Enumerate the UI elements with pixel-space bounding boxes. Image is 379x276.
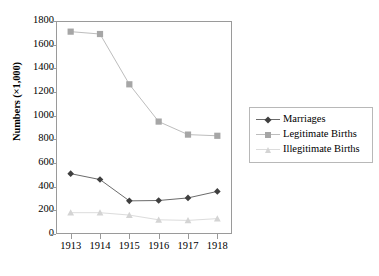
x-axis-tick-mark — [217, 234, 218, 239]
y-axis-tick-label: 600 — [8, 157, 54, 168]
y-axis-tick-label: 800 — [8, 133, 54, 144]
y-axis-tick-label: 1200 — [8, 86, 54, 97]
legend-marker-triangle-icon — [255, 143, 281, 156]
legend-label: Illegitimate Births — [281, 144, 360, 155]
y-axis-tick-label: 200 — [8, 204, 54, 215]
plot-area — [56, 21, 232, 234]
legend-marker-diamond-icon — [255, 113, 281, 126]
y-axis-tick-mark — [51, 234, 56, 235]
y-axis-tick-label: 0 — [8, 228, 54, 239]
y-axis-tick-label: 1000 — [8, 110, 54, 121]
legend-label: Marriages — [281, 114, 326, 125]
y-axis-tick-label: 400 — [8, 181, 54, 192]
legend-item-marriages[interactable]: Marriages — [255, 112, 367, 127]
x-axis-tick-mark — [159, 234, 160, 239]
x-axis-tick-mark — [129, 234, 130, 239]
y-axis-tick-label: 1600 — [8, 39, 54, 50]
legend-marker-square-icon — [255, 128, 281, 141]
chart-legend: Marriages Legitimate Births Illegitimate… — [249, 107, 373, 163]
x-axis-tick-mark — [71, 234, 72, 239]
y-axis-tick-label: 1400 — [8, 62, 54, 73]
x-axis-tick-label: 1918 — [197, 241, 237, 252]
y-axis-title: Numbers (×1,000) — [11, 37, 22, 167]
legend-item-legitimate-births[interactable]: Legitimate Births — [255, 127, 367, 142]
x-axis-tick-mark — [100, 234, 101, 239]
line-chart: Numbers (×1,000) 02004006008001000120014… — [0, 0, 379, 276]
legend-label: Legitimate Births — [281, 129, 357, 140]
legend-item-illegitimate-births[interactable]: Illegitimate Births — [255, 142, 367, 157]
x-axis-tick-mark — [188, 234, 189, 239]
y-axis-tick-label: 1800 — [8, 15, 54, 26]
